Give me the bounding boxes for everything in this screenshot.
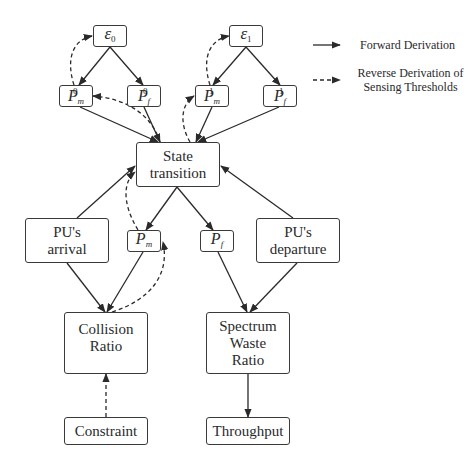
node-epsilon-1: ε1: [229, 25, 263, 47]
node-spectrum-waste-ratio: Spectrum Waste Ratio: [206, 312, 290, 374]
node-pm: Pm: [127, 230, 161, 252]
node-pf0: P0f: [127, 85, 161, 107]
legend-reverse-label: Reverse Derivation of Sensing Thresholds: [348, 66, 473, 94]
node-constraint: Constraint: [64, 417, 148, 445]
node-pu-departure: PU's departure: [256, 218, 340, 263]
node-state-transition: State transition: [136, 142, 220, 187]
node-pm0: P0m: [59, 85, 93, 107]
node-epsilon-0: ε0: [93, 25, 127, 47]
node-collision-ratio: Collision Ratio: [64, 312, 148, 374]
legend-forward-label: Forward Derivation: [350, 38, 465, 52]
node-pm1: P1m: [195, 85, 229, 107]
node-pf1: P1f: [263, 85, 297, 107]
node-throughput: Throughput: [206, 417, 290, 445]
node-pu-arrival: PU's arrival: [25, 218, 109, 263]
node-pf: Pf: [200, 230, 234, 252]
